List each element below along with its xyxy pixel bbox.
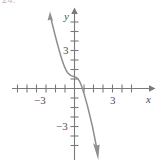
y-axis-label: y xyxy=(64,11,69,22)
coordinate-plane-svg xyxy=(0,0,162,167)
x-tick-label-three: 3 xyxy=(110,95,116,106)
curve-arrow-up xyxy=(48,12,54,22)
y-axis xyxy=(71,13,79,160)
x-tick-label-negative-three: −3 xyxy=(34,95,46,106)
y-tick-label-negative-three: −3 xyxy=(56,121,68,132)
graph-figure: 24. xyxy=(0,0,162,167)
y-tick-label-three: 3 xyxy=(63,45,69,56)
x-axis-label: x xyxy=(146,94,151,105)
